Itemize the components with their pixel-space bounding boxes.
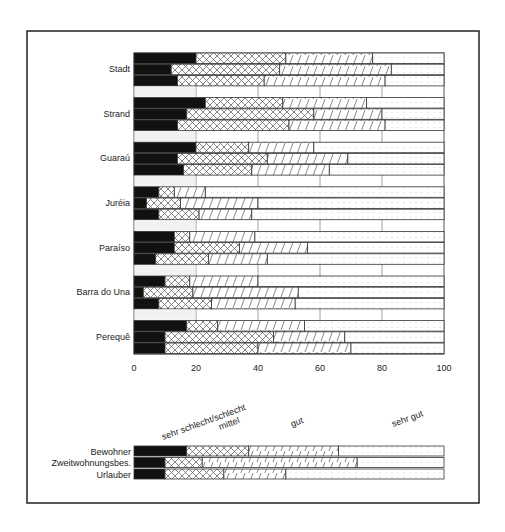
segment-gut [239, 243, 307, 254]
segment-sehr-gut [329, 165, 444, 176]
segment-sehr-gut [298, 287, 444, 298]
x-tick-label: 20 [191, 363, 201, 373]
segment-sehr-schlecht [134, 343, 165, 354]
segment-gut [190, 231, 255, 242]
segment-sehr-schlecht [134, 332, 165, 343]
segment-sehr-gut [339, 446, 444, 456]
bar-row [134, 209, 444, 220]
segment-sehr-schlecht [134, 165, 184, 176]
segment-sehr-gut [348, 153, 444, 164]
segment-sehr-gut [267, 254, 444, 264]
segment-gut [258, 343, 351, 354]
gap-cell [135, 87, 196, 97]
segment-sehr-schlecht [134, 446, 187, 456]
segment-mittel [174, 243, 239, 254]
segment-gut [252, 165, 329, 176]
segment-mittel [146, 198, 180, 209]
bar-row [134, 231, 444, 242]
segment-mittel [165, 469, 224, 479]
segment-sehr-schlecht [134, 198, 146, 209]
segment-mittel [177, 153, 267, 164]
segment-gut [199, 209, 252, 220]
segment-mittel [165, 458, 202, 468]
segment-gut [249, 446, 339, 456]
segment-sehr-gut [391, 64, 444, 75]
segment-sehr-schlecht [134, 153, 177, 164]
segment-sehr-gut [314, 142, 444, 153]
segment-gut [280, 64, 392, 75]
segment-sehr-gut [295, 298, 444, 309]
segment-gut [224, 469, 286, 479]
x-tick-label: 60 [315, 363, 325, 373]
segment-mittel [156, 254, 209, 264]
category-label: Perequê [96, 332, 130, 342]
segment-gut [274, 332, 345, 343]
segment-mittel [177, 120, 289, 131]
legend-row-label: Urlauber [96, 470, 131, 480]
segment-gut [208, 254, 267, 264]
segment-gut [190, 276, 258, 287]
segment-sehr-schlecht [134, 109, 187, 120]
bar-row [134, 120, 444, 131]
bar-row [134, 142, 444, 153]
segment-mittel [177, 75, 264, 86]
segment-mittel [187, 321, 218, 332]
segment-mittel [165, 332, 274, 343]
category-label: Strand [103, 109, 130, 119]
segment-sehr-schlecht [134, 98, 205, 109]
segment-sehr-schlecht [134, 187, 159, 198]
segment-sehr-schlecht [134, 209, 159, 220]
segment-sehr-schlecht [134, 243, 174, 254]
segment-sehr-schlecht [134, 64, 171, 75]
bar-row [134, 75, 444, 86]
segment-sehr-gut [385, 75, 444, 86]
bar-row [134, 243, 444, 254]
segment-sehr-schlecht [134, 469, 165, 479]
bar-row [134, 276, 444, 287]
segment-gut [202, 458, 357, 468]
bar-row [134, 98, 444, 109]
segment-sehr-schlecht [134, 276, 165, 287]
bar-row [134, 64, 444, 75]
segment-gut [283, 98, 367, 109]
category-label: Stadt [109, 64, 131, 74]
segment-sehr-gut [258, 276, 444, 287]
category-label: Guaraú [100, 153, 130, 163]
segment-sehr-gut [258, 198, 444, 209]
segment-gut [181, 198, 259, 209]
segment-gut [174, 187, 205, 198]
segment-gut [212, 298, 296, 309]
segment-gut [218, 321, 305, 332]
bar-row [134, 53, 444, 64]
main-plot: StadtStrandGuaraúJuréiaParaísoBarra do U… [76, 53, 444, 354]
bar-row [134, 321, 444, 332]
bar-row [134, 198, 444, 209]
segment-sehr-schlecht [134, 120, 177, 131]
segment-sehr-schlecht [134, 231, 174, 242]
segment-sehr-schlecht [134, 321, 187, 332]
segment-sehr-gut [255, 231, 444, 242]
segment-mittel [174, 231, 190, 242]
segment-gut [193, 287, 298, 298]
segment-mittel [143, 287, 193, 298]
segment-gut [286, 53, 373, 64]
gap-cell [135, 220, 196, 230]
gap-cell [135, 265, 196, 275]
bar-row [134, 153, 444, 164]
gap-cell [135, 176, 196, 186]
segment-mittel [159, 187, 175, 198]
segment-gut [267, 153, 348, 164]
segment-sehr-gut [357, 458, 444, 468]
segment-gut [314, 109, 382, 120]
segment-sehr-gut [385, 120, 444, 131]
chart: StadtStrandGuaraúJuréiaParaísoBarra do U… [0, 0, 505, 532]
segment-sehr-schlecht [134, 298, 159, 309]
bar-row [134, 187, 444, 198]
bar-row [134, 332, 444, 343]
segment-sehr-gut [305, 321, 445, 332]
segment-sehr-gut [373, 53, 444, 64]
segment-sehr-schlecht [134, 75, 177, 86]
x-axis: 020406080100 [131, 363, 451, 373]
segment-mittel [205, 98, 282, 109]
legend-row-label: Bewohner [90, 447, 131, 457]
